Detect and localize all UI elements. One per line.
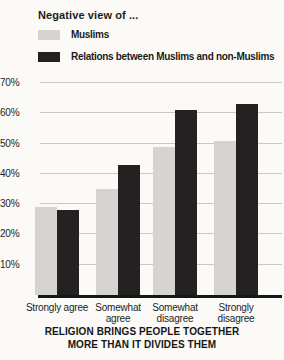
legend-label-muslims: Muslims xyxy=(71,29,109,40)
x-axis-label-strongly-disagree: Strongly disagree xyxy=(203,302,269,324)
legend-swatch-relations xyxy=(38,52,60,62)
legend-swatch-muslims xyxy=(38,30,60,40)
x-axis-label-somewhat-disagree: Somewhat disagree xyxy=(142,302,208,324)
chart-header: Negative view of ... Muslims Relations b… xyxy=(0,0,284,62)
bar-muslims-strongly-disagree xyxy=(214,141,236,295)
legend: Muslims Relations between Muslims and no… xyxy=(38,29,284,62)
chart-caption: RELIGION BRINGS PEOPLE TOGETHER MORE THA… xyxy=(0,325,284,351)
legend-label-relations: Relations between Muslims and non-Muslim… xyxy=(71,51,274,62)
y-axis-label-60: 60% xyxy=(0,108,30,118)
x-axis-label-strongly-agree: Strongly agree xyxy=(24,302,90,313)
y-axis-label-50: 50% xyxy=(0,139,30,149)
chart-title: Negative view of ... xyxy=(38,8,284,22)
bar-muslims-somewhat-disagree xyxy=(153,147,175,295)
bar-relations-somewhat-disagree xyxy=(175,110,197,295)
bar-relations-somewhat-agree xyxy=(118,165,140,295)
bar-relations-strongly-agree xyxy=(57,210,79,295)
bar-muslims-somewhat-agree xyxy=(96,189,118,295)
y-axis-label-10: 10% xyxy=(0,260,30,270)
legend-item-relations: Relations between Muslims and non-Muslim… xyxy=(38,51,284,62)
caption-line-1: RELIGION BRINGS PEOPLE TOGETHER xyxy=(0,325,284,338)
gridline-70 xyxy=(40,82,282,83)
caption-line-2: MORE THAN IT DIVIDES THEM xyxy=(0,338,284,351)
y-axis-label-70: 70% xyxy=(0,78,30,88)
y-axis-label-40: 40% xyxy=(0,169,30,179)
bar-relations-strongly-disagree xyxy=(236,104,258,295)
plot-area: 10%20%30%40%50%60%70%Strongly agreeSomew… xyxy=(38,77,282,298)
bar-muslims-strongly-agree xyxy=(35,207,57,295)
legend-item-muslims: Muslims xyxy=(38,29,284,40)
chart-panel: Negative view of ... Muslims Relations b… xyxy=(0,0,284,360)
y-axis-label-30: 30% xyxy=(0,199,30,209)
y-axis-label-20: 20% xyxy=(0,229,30,239)
